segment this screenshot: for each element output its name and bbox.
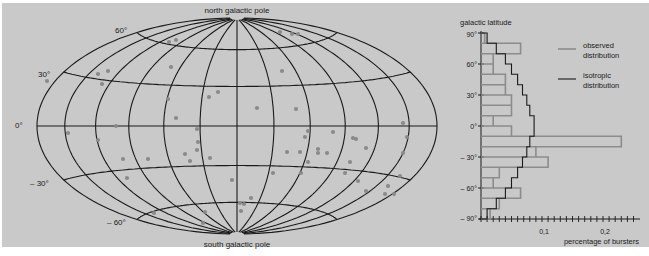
- y-tick-30: 30°: [466, 92, 477, 99]
- x-axis-title: percentage of bursters: [564, 237, 639, 246]
- legend-isotropic-label-line2: distribution: [583, 81, 619, 90]
- figure: north galactic pole south galactic pole …: [0, 0, 649, 256]
- legend-observed-label-line2: distribution: [583, 51, 619, 60]
- y-axis-title: galactic latitude: [460, 18, 512, 27]
- y-tick-60: 60°: [466, 61, 477, 68]
- legend: observed distribution isotropic distribu…: [558, 41, 619, 90]
- y-tick-m30: – 30°: [461, 154, 478, 161]
- legend-isotropic-label-line1: isotropic: [583, 71, 611, 80]
- observed-distribution-line: [481, 33, 621, 219]
- y-tick-0: 0°: [470, 123, 477, 130]
- y-tick-90: 90°: [466, 31, 477, 38]
- legend-observed-label-line1: observed: [583, 41, 614, 50]
- y-tick-m60: – 60°: [461, 185, 478, 192]
- x-tick-0-2: 0,2: [600, 228, 610, 235]
- latitude-histogram: galactic latitude 90° 60° 30° 0° – 30° –…: [0, 0, 649, 256]
- y-tick-m90: – 90°: [461, 215, 478, 222]
- x-tick-0-1: 0,1: [539, 228, 549, 235]
